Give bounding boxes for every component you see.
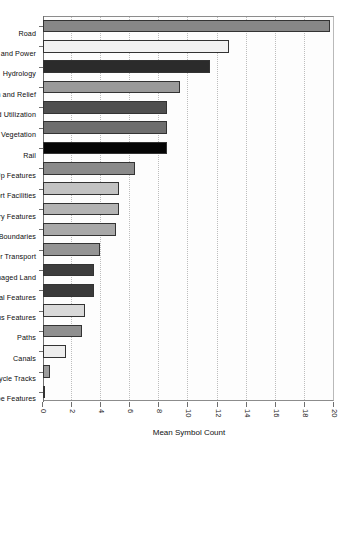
- category-axis-tick: [39, 67, 43, 68]
- category-axis-label: General Built-Up Features: [0, 171, 36, 180]
- category-axis-tick: [39, 128, 43, 129]
- category-axis-label: Road: [18, 29, 36, 38]
- value-axis-tick: [188, 402, 189, 407]
- category-axis-tick: [39, 250, 43, 251]
- category-axis-label: Managed Land: [0, 273, 36, 282]
- bar[interactable]: [43, 81, 180, 94]
- category-axis-tick: [39, 189, 43, 190]
- category-axis-label: Non-Landscape Features: [0, 394, 36, 403]
- value-axis-tick-label: 12: [214, 409, 222, 417]
- bar[interactable]: [43, 142, 167, 155]
- category-axis-label: Other Transport: [0, 252, 36, 261]
- category-axis-label: Rail: [23, 151, 36, 160]
- category-axis-label: Cycle Tracks: [0, 374, 36, 383]
- bar[interactable]: [43, 345, 66, 358]
- value-axis-tick-label: 20: [330, 409, 338, 417]
- bar[interactable]: [43, 325, 82, 338]
- bar[interactable]: [43, 182, 119, 195]
- category-axis-label: Tourist and Sport Facilities: [0, 191, 36, 200]
- value-axis-tick: [275, 402, 276, 407]
- category-axis-label: Water Management and Utilization: [0, 110, 36, 119]
- bar[interactable]: [43, 20, 330, 33]
- value-axis-tick-label: 10: [185, 409, 193, 417]
- category-axis-tick: [39, 331, 43, 332]
- category-axis-tick: [39, 270, 43, 271]
- value-axis-tick-label: 0: [39, 409, 47, 413]
- value-axis-tick: [246, 402, 247, 407]
- bar[interactable]: [43, 386, 45, 399]
- category-axis-label: Navigation and Military Features: [0, 212, 36, 221]
- value-axis-tick-label: 6: [126, 409, 134, 413]
- bar[interactable]: [43, 40, 229, 53]
- category-axis-label: Vegetation: [1, 130, 36, 139]
- category-axis-label: Religious Features: [0, 313, 36, 322]
- value-axis-tick-label: 2: [68, 409, 76, 413]
- value-axis-tick-label: 4: [97, 409, 105, 413]
- bar[interactable]: [43, 365, 50, 378]
- category-axis-label: Canals: [13, 354, 36, 363]
- category-axis-tick: [39, 372, 43, 373]
- bar[interactable]: [43, 243, 100, 256]
- category-axis-tick: [39, 46, 43, 47]
- bar[interactable]: [43, 284, 94, 297]
- category-axis-tick: [39, 290, 43, 291]
- value-axis-tick-label: 16: [272, 409, 280, 417]
- category-axis-label: Terrain and Relief: [0, 90, 36, 99]
- value-axis-tick: [333, 402, 334, 407]
- category-axis-label: Hydrology: [3, 69, 36, 78]
- value-axis-title: Mean Symbol Count: [153, 428, 225, 437]
- value-axis-tick: [129, 402, 130, 407]
- value-axis-tick: [158, 402, 159, 407]
- category-axis-tick: [39, 87, 43, 88]
- bar[interactable]: [43, 304, 85, 317]
- value-axis-tick: [42, 402, 43, 407]
- bars-container: [43, 16, 334, 402]
- bar[interactable]: [43, 121, 167, 134]
- category-axis-tick: [39, 351, 43, 352]
- category-axis-tick: [39, 209, 43, 210]
- category-axis-label: Administrative Boundaries: [0, 232, 36, 241]
- value-axis-tick: [217, 402, 218, 407]
- category-axis-tick: [39, 229, 43, 230]
- bar[interactable]: [43, 162, 135, 175]
- figure-rotation-wrapper: 02468101214161820 RoadIndustry, Communic…: [0, 0, 344, 535]
- bar[interactable]: [43, 203, 119, 216]
- value-axis-tick: [71, 402, 72, 407]
- bar[interactable]: [43, 223, 116, 236]
- category-axis-tick: [39, 26, 43, 27]
- bar[interactable]: [43, 101, 167, 114]
- value-axis-tick-label: 14: [243, 409, 251, 417]
- category-axis-tick: [39, 107, 43, 108]
- category-axis-label: Historical Features: [0, 293, 36, 302]
- bar[interactable]: [43, 60, 210, 73]
- value-axis-tick: [100, 402, 101, 407]
- value-axis-tick: [304, 402, 305, 407]
- category-axis-tick: [39, 311, 43, 312]
- bar-chart-figure: 02468101214161820 RoadIndustry, Communic…: [0, 0, 344, 535]
- category-axis-tick: [39, 392, 43, 393]
- value-axis-tick-label: 8: [155, 409, 163, 413]
- category-axis-label: Paths: [17, 333, 36, 342]
- value-axis-tick-label: 18: [301, 409, 309, 417]
- category-axis-tick: [39, 168, 43, 169]
- bar[interactable]: [43, 264, 94, 277]
- category-axis-tick: [39, 148, 43, 149]
- category-axis-label: Industry, Communications, and Power: [0, 49, 36, 58]
